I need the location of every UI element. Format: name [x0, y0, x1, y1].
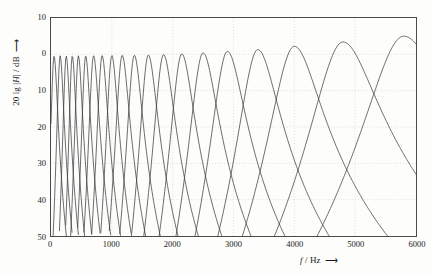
y-axis-label-bar-right: |: [11, 74, 21, 76]
filter-curve: [120, 55, 161, 236]
y-axis-arrow-icon: ⟶: [11, 40, 21, 52]
x-tick-label: 3000: [225, 240, 242, 249]
x-tick-label: 1000: [103, 240, 120, 249]
y-tick-label: 0: [42, 49, 46, 58]
x-tick-label: 5000: [347, 240, 364, 249]
y-axis-tick-labels: 1001020304050: [0, 0, 46, 276]
x-axis-label-suffix: / Hz: [303, 255, 321, 265]
x-tick-label: 4000: [286, 240, 303, 249]
y-axis-label: 20 lg |H| / dB⟶: [11, 13, 21, 133]
y-tick-label: 20: [38, 123, 47, 132]
filter-curve: [195, 51, 286, 236]
filter-curve: [242, 46, 389, 236]
x-axis-arrow-icon: ⟶: [325, 255, 337, 265]
y-axis-label-suffix: / dB: [11, 56, 21, 74]
y-tick-label: 10: [38, 13, 47, 22]
filter-response-curves: [51, 18, 416, 236]
y-tick-label: 40: [38, 196, 47, 205]
x-tick-label: 0: [48, 240, 52, 249]
y-tick-label: 30: [38, 159, 47, 168]
x-tick-label: 6000: [409, 240, 426, 249]
y-tick-label: 10: [38, 86, 47, 95]
plot-area: [50, 17, 417, 237]
filter-curve: [316, 36, 416, 236]
x-tick-label: 2000: [164, 240, 181, 249]
filter-curve: [159, 54, 222, 236]
y-axis-label-variable: H: [11, 76, 21, 83]
filter-curve: [217, 50, 329, 236]
filter-curve: [176, 53, 252, 236]
filter-curve: [144, 55, 199, 236]
y-tick-label: 50: [38, 233, 47, 242]
filter-curve: [274, 42, 416, 236]
y-axis-label-prefix: 20 lg: [11, 85, 21, 106]
x-axis-label: f / Hz⟶: [300, 255, 337, 265]
filter-bank-figure: 1001020304050 20 lg |H| / dB⟶ 0100020003…: [0, 0, 432, 276]
y-axis-label-bar-left: |: [11, 83, 21, 85]
